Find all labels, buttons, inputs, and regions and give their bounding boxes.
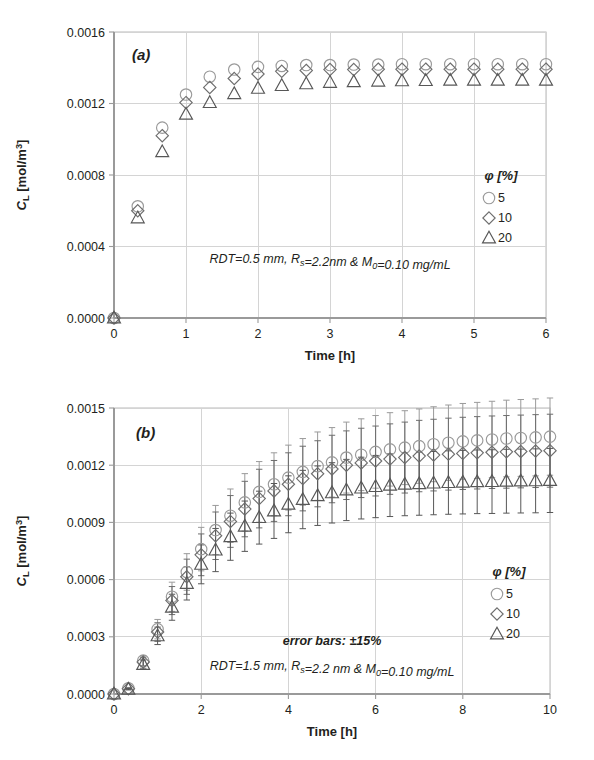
data-point-circle	[420, 58, 431, 69]
x-tick-label: 5	[471, 327, 478, 341]
y-tick-label: 0.0004	[67, 240, 105, 254]
chart-panel-a: 0.00000.00040.00080.00120.00160123456Tim…	[0, 0, 594, 380]
legend-item-5: 5	[498, 191, 505, 205]
chart-svg: 0.00000.00040.00080.00120.00160123456Tim…	[0, 0, 594, 380]
legend-item-10: 10	[498, 211, 512, 225]
data-point-circle	[483, 192, 494, 203]
data-point-circle	[491, 588, 502, 599]
data-point-triangle	[483, 231, 496, 243]
data-point-circle	[229, 64, 240, 75]
panel-label: (b)	[136, 424, 155, 441]
data-point-diamond	[491, 608, 503, 620]
panel-label: (a)	[132, 46, 150, 63]
y-tick-label: 0.0008	[67, 169, 105, 183]
x-tick-label: 10	[543, 703, 557, 717]
x-tick-label: 2	[255, 327, 262, 341]
x-axis-title: Time [h]	[307, 724, 357, 739]
chart-panel-b: 0.00000.00030.00060.00090.00120.00150246…	[0, 380, 594, 760]
legend: φ [%]51020	[483, 168, 519, 245]
annotation-text: error bars: ±15%	[283, 634, 382, 648]
x-tick-label: 4	[399, 327, 406, 341]
y-tick-label: 0.0000	[67, 312, 105, 326]
data-point-triangle	[300, 77, 313, 89]
legend-item-20: 20	[498, 231, 512, 245]
data-point-circle	[445, 58, 456, 69]
x-tick-label: 8	[459, 703, 466, 717]
annotation-text: RDT=0.5 mm, Rs=2.2nm & M0=0.10 mg/mL	[209, 252, 450, 272]
y-axis-title: CL [mol/m3]	[14, 516, 31, 587]
chart-svg: 0.00000.00030.00060.00090.00120.00150246…	[0, 380, 594, 760]
data-point-diamond	[204, 81, 216, 93]
y-tick-label: 0.0015	[67, 402, 105, 416]
figure-container: 0.00000.00040.00080.00120.00160123456Tim…	[0, 0, 594, 760]
legend: φ [%]51020	[491, 564, 527, 641]
x-axis-title: Time [h]	[305, 348, 355, 363]
data-point-triangle	[275, 79, 288, 91]
y-tick-label: 0.0012	[67, 459, 105, 473]
legend-item-10: 10	[506, 607, 520, 621]
x-tick-label: 0	[111, 327, 118, 341]
legend-title: φ [%]	[485, 168, 519, 183]
data-point-circle	[157, 122, 168, 133]
y-tick-label: 0.0009	[67, 516, 105, 530]
data-point-circle	[492, 58, 503, 69]
data-point-triangle	[228, 87, 241, 99]
data-point-triangle	[156, 145, 169, 157]
data-point-diamond	[228, 72, 240, 84]
x-tick-label: 0	[111, 703, 118, 717]
x-tick-label: 2	[198, 703, 205, 717]
y-tick-label: 0.0003	[67, 630, 105, 644]
x-tick-label: 1	[183, 327, 190, 341]
x-tick-label: 3	[327, 327, 334, 341]
data-series-group	[108, 398, 557, 700]
data-point-diamond	[483, 212, 495, 224]
y-axis-title: CL [mol/m3]	[14, 140, 31, 211]
data-point-circle	[373, 59, 384, 70]
x-tick-label: 6	[372, 703, 379, 717]
y-tick-label: 0.0012	[67, 97, 105, 111]
legend-item-5: 5	[506, 587, 513, 601]
y-tick-label: 0.0000	[67, 688, 105, 702]
y-tick-label: 0.0016	[67, 26, 105, 40]
x-tick-label: 6	[543, 327, 550, 341]
data-point-circle	[348, 59, 359, 70]
x-tick-label: 4	[285, 703, 292, 717]
data-point-triangle	[203, 96, 216, 108]
data-point-triangle	[347, 75, 360, 87]
legend-title: φ [%]	[493, 564, 527, 579]
annotation-text: RDT=1.5 mm, Rs=2.2 nm & M0=0.10 mg/mL	[210, 659, 455, 679]
y-tick-label: 0.0006	[67, 573, 105, 587]
legend-item-20: 20	[506, 627, 520, 641]
data-point-circle	[517, 58, 528, 69]
